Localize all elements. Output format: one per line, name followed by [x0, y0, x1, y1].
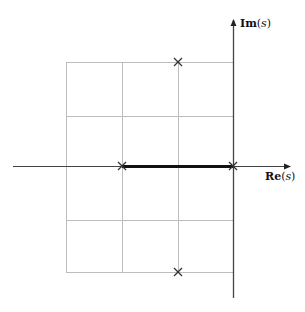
real-axis-label: Re(s): [265, 170, 295, 183]
root-locus-diagram: Im(s) Re(s): [0, 0, 305, 312]
imaginary-axis-label: Im(s): [240, 17, 271, 30]
